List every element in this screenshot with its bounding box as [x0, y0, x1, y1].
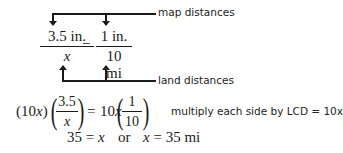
equals-sign: =: [82, 37, 90, 54]
numerator: 1 in.: [96, 28, 132, 45]
left-paren-close: ): [78, 92, 85, 130]
numerator: 3.5: [56, 93, 78, 110]
arrow-down-icon: [49, 21, 57, 26]
land-bracket-line: [62, 80, 156, 82]
fraction-bar: [56, 111, 78, 112]
land-distances-label: land distances: [158, 74, 234, 86]
denominator: 10: [122, 113, 142, 130]
equals-sign: =: [87, 103, 95, 120]
right-paren-close: ): [143, 92, 150, 130]
step2-or: or: [118, 129, 131, 146]
map-bracket-line: [52, 13, 156, 15]
numerator: 1: [122, 93, 142, 110]
step1-note: multiply each side by LCD = 10x: [171, 105, 343, 117]
fraction-bar: [122, 111, 142, 112]
map-distances-label: map distances: [158, 6, 235, 18]
arrow-down-icon: [102, 21, 110, 26]
lcd-factor-left: (10x): [16, 103, 48, 120]
fraction-bar: [96, 46, 132, 47]
denominator: x: [56, 113, 78, 130]
fraction-map-land-right: 1 in. 10 mi: [96, 28, 132, 82]
fraction-step1-right: 1 10: [122, 93, 142, 130]
step2-right-equation: x = 35 mi: [143, 129, 200, 146]
step2-left-equation: 35 = x: [67, 129, 105, 146]
fraction-step1-left: 3.5 x: [56, 93, 78, 130]
